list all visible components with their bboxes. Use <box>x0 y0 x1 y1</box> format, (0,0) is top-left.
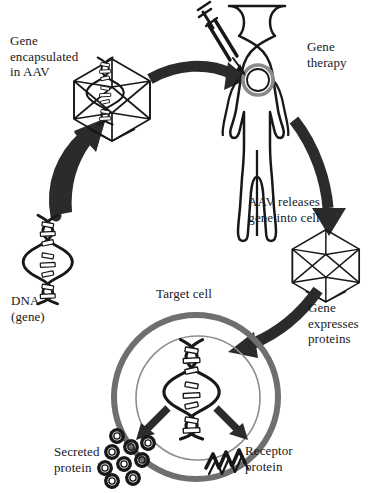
label-aav-releases-gene-into-cell: AAV releases gene into cell <box>232 194 336 225</box>
arrow-expression-right <box>216 408 248 440</box>
label-gene-therapy: Gene therapy <box>307 39 367 70</box>
label-gene-expresses-proteins: Gene expresses proteins <box>308 300 366 347</box>
label-dna-gene: DNA (gene) <box>11 293 73 324</box>
aav-capsid-delivery-icon <box>292 230 359 302</box>
label-secreted-protein: Secreted protein <box>54 444 128 475</box>
arrow-aav-to-target-cell <box>228 290 318 358</box>
label-gene-encapsulated-in-aav: Gene encapsulated in AAV <box>10 33 102 80</box>
label-target-cell: Target cell <box>156 286 236 302</box>
arrow-expression-left <box>136 408 168 440</box>
dna-free-icon <box>23 215 72 304</box>
gene-therapy-diagram: Gene encapsulated in AAV Gene therapy AA… <box>0 0 368 493</box>
label-receptor-protein: Receptor protein <box>245 443 323 474</box>
dna-in-cell-icon <box>164 340 219 439</box>
